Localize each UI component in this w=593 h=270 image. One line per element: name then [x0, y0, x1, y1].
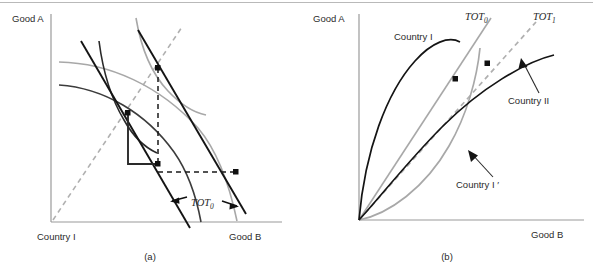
point-production [125, 110, 131, 116]
point-trade-endpoint [233, 169, 239, 175]
tot-subscript: 0 [210, 202, 214, 211]
indifference-curve-high-gray [136, 18, 206, 115]
tot0-text: TOT [465, 11, 485, 22]
label-country-1-prime: Country I ′ [456, 179, 499, 190]
point-consumption-low [155, 161, 161, 167]
tot0-subscript: 0 [484, 16, 488, 25]
panel-a-svg: TOT0 Good A Country I Good B (a) [0, 0, 296, 270]
point-consumption-high [155, 65, 161, 71]
panel-b: Good A Good B Country I Country II Count… [297, 0, 593, 270]
panel-a-tot-label: TOT0 [191, 197, 214, 211]
tot-text: TOT [191, 197, 211, 208]
panel-b-y-axis-label: Good A [313, 13, 345, 24]
country-1-prime-leader [468, 150, 493, 177]
tot1-subscript: 1 [552, 16, 556, 25]
ppf-outer-gray-curve [59, 62, 237, 221]
figure-root: TOT0 Good A Country I Good B (a) [0, 0, 593, 270]
panel-b-x-axis-label: Good B [531, 229, 563, 240]
point-equilibrium-1 [485, 61, 491, 67]
panel-a-caption: (a) [144, 251, 156, 262]
panel-a-x-axis-label: Good B [229, 231, 261, 242]
point-equilibrium-0 [453, 76, 459, 82]
income-consumption-ray-dashed [53, 27, 182, 220]
panel-b-caption: (b) [441, 251, 453, 262]
tot0-arrow-right [222, 201, 239, 210]
panel-a: TOT0 Good A Country I Good B (a) [0, 0, 296, 270]
label-country-1: Country I [394, 31, 433, 42]
label-country-2: Country II [508, 95, 549, 106]
panel-b-svg: Good A Good B Country I Country II Count… [297, 0, 593, 270]
panel-a-origin-label: Country I [37, 231, 76, 242]
trade-triangle-step [128, 113, 158, 164]
panel-b-tot0-label: TOT0 [465, 11, 488, 25]
tot1-text: TOT [533, 11, 553, 22]
panel-a-y-axis-label: Good A [12, 13, 44, 24]
offer-curve-country-1-prime [359, 48, 480, 220]
